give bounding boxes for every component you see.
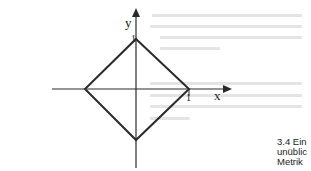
x-tick-label: 1 — [186, 92, 191, 103]
x-axis-arrow-icon — [223, 85, 232, 93]
figure-caption: 3.4 Ein unüblic Metrik — [277, 137, 307, 167]
y-axis-arrow-icon — [132, 8, 140, 17]
diagram-figure: y x 1 1 3.4 Ein unüblic Metrik — [0, 0, 311, 171]
y-axis-label: y — [125, 15, 132, 31]
x-axis-label: x — [214, 88, 221, 104]
caption-line: Metrik — [277, 157, 307, 167]
y-tick-label: 1 — [131, 33, 136, 44]
diagram-svg — [0, 0, 311, 171]
